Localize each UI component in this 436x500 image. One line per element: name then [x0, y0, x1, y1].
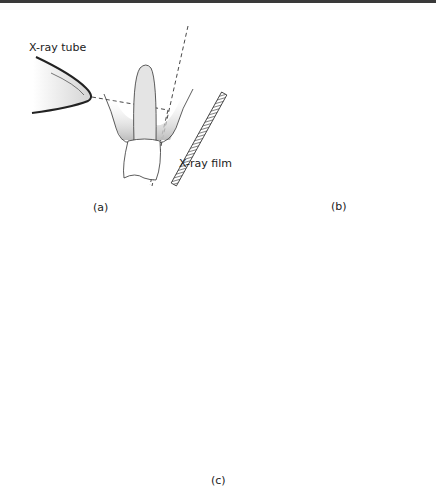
label-xray-tube: X-ray tube	[29, 41, 86, 54]
incisor-crown-a	[124, 139, 161, 180]
incisor-root-a	[134, 65, 157, 141]
caption-b: (b)	[331, 200, 347, 213]
label-xray-film: X-ray film	[179, 157, 232, 170]
xray-tube-a	[32, 56, 91, 115]
caption-c: (c)	[211, 474, 226, 487]
caption-a: (a)	[93, 201, 108, 214]
central-ray-a	[92, 97, 168, 110]
dental-radiography-diagram	[0, 0, 436, 500]
